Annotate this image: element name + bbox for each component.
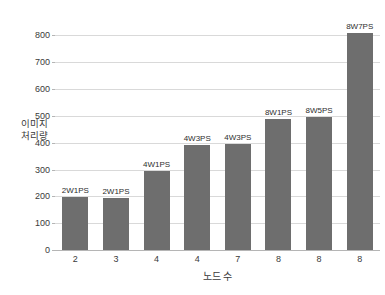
bar-value-label: 8W7PS <box>346 22 373 31</box>
bar-value-label: 4W1PS <box>143 160 170 169</box>
bar[interactable] <box>103 198 129 250</box>
y-tick-label: 600 <box>35 84 50 94</box>
y-tick-label: 100 <box>35 218 50 228</box>
bar-value-label: 2W1PS <box>62 186 89 195</box>
x-tick-label: 4 <box>154 254 159 264</box>
bar[interactable] <box>347 33 373 250</box>
bar-chart: 이미지 처리량 0100200300400500600700800 2W1PS2… <box>0 0 385 295</box>
x-axis-title: 노드 수 <box>55 268 380 283</box>
bar-group[interactable]: 2W1PS3 <box>96 22 137 250</box>
plot-area: 0100200300400500600700800 2W1PS22W1PS34W… <box>55 22 380 250</box>
bar-value-label: 2W1PS <box>102 187 129 196</box>
bar-group[interactable]: 4W3PS4 <box>177 22 218 250</box>
x-tick-label: 8 <box>276 254 281 264</box>
bars-group: 2W1PS22W1PS34W1PS44W3PS44W3PS78W1PS88W5P… <box>55 22 380 250</box>
y-tick-label: 700 <box>35 57 50 67</box>
y-tick-label: 400 <box>35 138 50 148</box>
x-tick-label: 7 <box>235 254 240 264</box>
gridline-y-0: 0 <box>55 250 380 251</box>
y-tick-mark <box>52 250 55 251</box>
x-tick-label: 2 <box>73 254 78 264</box>
bar[interactable] <box>265 119 291 250</box>
y-tick-label: 200 <box>35 191 50 201</box>
bar-group[interactable]: 2W1PS2 <box>55 22 96 250</box>
x-tick-label: 3 <box>113 254 118 264</box>
bar-group[interactable]: 8W7PS8 <box>339 22 380 250</box>
y-tick-label: 500 <box>35 111 50 121</box>
y-tick-label: 300 <box>35 165 50 175</box>
x-tick-label: 4 <box>195 254 200 264</box>
bar-group[interactable]: 8W5PS8 <box>299 22 340 250</box>
bar-group[interactable]: 8W1PS8 <box>258 22 299 250</box>
bar[interactable] <box>184 145 210 250</box>
bar-value-label: 4W3PS <box>224 133 251 142</box>
bar[interactable] <box>144 171 170 250</box>
bar[interactable] <box>225 144 251 250</box>
bar[interactable] <box>62 197 88 250</box>
bar[interactable] <box>306 117 332 250</box>
bar-value-label: 8W1PS <box>265 108 292 117</box>
bar-value-label: 8W5PS <box>306 106 333 115</box>
x-tick-label: 8 <box>317 254 322 264</box>
bar-group[interactable]: 4W3PS7 <box>218 22 259 250</box>
bar-value-label: 4W3PS <box>184 134 211 143</box>
x-tick-label: 8 <box>357 254 362 264</box>
bar-group[interactable]: 4W1PS4 <box>136 22 177 250</box>
y-tick-label: 0 <box>45 245 50 255</box>
y-tick-label: 800 <box>35 30 50 40</box>
